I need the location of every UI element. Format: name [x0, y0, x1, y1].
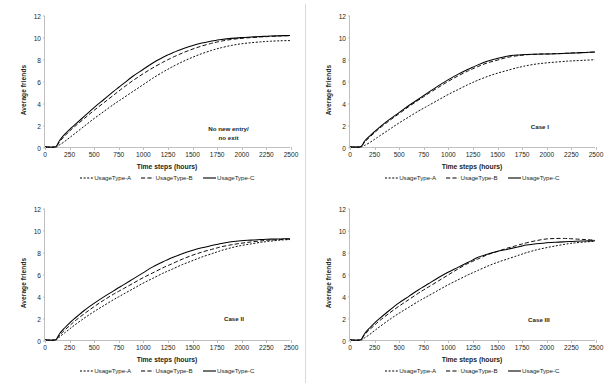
x-tick-label: 0: [43, 151, 47, 158]
x-tick-mark: [291, 340, 292, 343]
x-tick-label: 1750: [210, 344, 225, 351]
x-tick-mark: [45, 340, 46, 343]
legend-item-usagetype-c[interactable]: UsageType-C: [203, 174, 255, 181]
y-tick-mark: [43, 60, 46, 61]
x-tick-mark: [547, 147, 548, 150]
legend-item-usagetype-c[interactable]: UsageType-C: [508, 367, 560, 374]
panel-4: Average friends 024681012025050075010001…: [305, 193, 611, 387]
legend-item-usagetype-b[interactable]: UsageType-B: [446, 174, 497, 181]
x-tick-mark: [498, 340, 499, 343]
y-tick-mark: [348, 209, 351, 210]
legend-1: UsageType-AUsageType-BUsageType-C: [44, 174, 290, 181]
x-tick-mark: [143, 147, 144, 150]
x-tick-mark: [350, 340, 351, 343]
x-tick-mark: [70, 340, 71, 343]
series-line-usagetype-a: [45, 240, 290, 340]
x-tick-label: 1500: [490, 151, 505, 158]
y-tick-label: 12: [34, 206, 41, 213]
y-tick-mark: [43, 126, 46, 127]
y-tick-label: 2: [342, 123, 346, 130]
figure-grid: Average friends 024681012025050075010001…: [0, 0, 611, 387]
x-tick-label: 250: [64, 151, 75, 158]
y-tick-label: 4: [342, 101, 346, 108]
y-tick-mark: [43, 253, 46, 254]
x-axis-label: Time steps (hours): [349, 163, 595, 170]
x-tick-label: 1750: [515, 344, 530, 351]
x-tick-mark: [242, 340, 243, 343]
x-tick-mark: [70, 147, 71, 150]
legend-item-usagetype-a[interactable]: UsageType-A: [385, 367, 436, 374]
legend-label: UsageType-A: [94, 367, 131, 374]
legend-item-usagetype-c[interactable]: UsageType-C: [203, 367, 255, 374]
legend-label: UsageType-C: [522, 174, 559, 181]
x-tick-label: 2000: [234, 344, 249, 351]
x-tick-mark: [399, 147, 400, 150]
x-tick-mark: [571, 147, 572, 150]
x-tick-label: 1000: [136, 344, 151, 351]
y-tick-label: 8: [37, 250, 41, 257]
x-tick-mark: [143, 340, 144, 343]
series-line-usagetype-b: [45, 239, 290, 340]
legend-label: UsageType-A: [399, 174, 436, 181]
panel-2: Average friends 024681012025050075010001…: [305, 0, 611, 193]
series-line-usagetype-b: [350, 238, 595, 340]
x-tick-label: 1250: [466, 344, 481, 351]
y-tick-mark: [348, 82, 351, 83]
legend-4: UsageType-AUsageType-BUsageType-C: [349, 367, 595, 374]
x-tick-label: 750: [113, 344, 124, 351]
y-tick-label: 0: [342, 338, 346, 345]
legend-3: UsageType-AUsageType-BUsageType-C: [44, 367, 290, 374]
x-tick-mark: [424, 340, 425, 343]
x-tick-label: 250: [64, 344, 75, 351]
x-axis-label: Time steps (hours): [44, 163, 290, 170]
y-tick-label: 6: [37, 272, 41, 279]
y-tick-label: 10: [34, 35, 41, 42]
x-tick-mark: [266, 340, 267, 343]
y-tick-label: 6: [37, 79, 41, 86]
panel-annotation-3: Case II: [204, 315, 264, 324]
legend-swatch-dotted: [385, 175, 398, 181]
x-tick-label: 2000: [234, 151, 249, 158]
legend-label: UsageType-C: [217, 174, 254, 181]
y-tick-mark: [348, 60, 351, 61]
y-tick-label: 0: [342, 145, 346, 152]
x-tick-mark: [119, 340, 120, 343]
x-tick-label: 500: [89, 151, 100, 158]
legend-item-usagetype-b[interactable]: UsageType-B: [141, 367, 192, 374]
series-line-usagetype-c: [45, 239, 290, 340]
y-tick-label: 10: [339, 35, 346, 42]
legend-item-usagetype-a[interactable]: UsageType-A: [80, 367, 131, 374]
y-tick-label: 2: [37, 316, 41, 323]
x-tick-mark: [448, 340, 449, 343]
y-tick-label: 6: [342, 79, 346, 86]
y-tick-mark: [348, 231, 351, 232]
y-tick-mark: [43, 209, 46, 210]
legend-swatch-dashed: [141, 368, 154, 374]
y-tick-mark: [348, 126, 351, 127]
x-tick-mark: [522, 147, 523, 150]
x-tick-mark: [596, 147, 597, 150]
legend-item-usagetype-a[interactable]: UsageType-A: [385, 174, 436, 181]
plot-wrap-1: Average friends 024681012025050075010001…: [0, 0, 305, 193]
y-tick-label: 8: [342, 57, 346, 64]
legend-label: UsageType-B: [461, 367, 498, 374]
x-tick-label: 1250: [161, 344, 176, 351]
y-tick-label: 8: [342, 250, 346, 257]
series-line-usagetype-b: [350, 52, 595, 147]
legend-item-usagetype-b[interactable]: UsageType-B: [141, 174, 192, 181]
legend-swatch-solid: [508, 175, 521, 181]
legend-item-usagetype-c[interactable]: UsageType-C: [508, 174, 560, 181]
legend-item-usagetype-a[interactable]: UsageType-A: [80, 174, 131, 181]
y-tick-label: 2: [37, 123, 41, 130]
y-tick-mark: [43, 231, 46, 232]
legend-item-usagetype-b[interactable]: UsageType-B: [446, 367, 497, 374]
x-tick-label: 1250: [466, 151, 481, 158]
x-tick-label: 0: [43, 344, 47, 351]
x-tick-label: 2250: [259, 344, 274, 351]
legend-swatch-solid: [203, 175, 216, 181]
panel-divider-vertical: [305, 4, 306, 383]
x-tick-label: 2250: [564, 151, 579, 158]
legend-label: UsageType-C: [217, 367, 254, 374]
legend-swatch-dotted: [80, 368, 93, 374]
y-tick-mark: [348, 319, 351, 320]
